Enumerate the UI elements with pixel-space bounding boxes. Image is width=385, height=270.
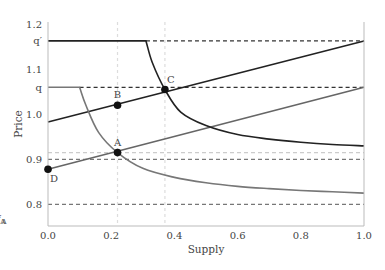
labeled-points: ABCD [44, 74, 175, 185]
x-tick-label: 0.2 [103, 230, 119, 241]
tick-labels: 1.2q′1.1q1.00.90.80.00.20.40.60.81.0yAy′… [0, 19, 372, 241]
y-tick-label: 0.9 [26, 154, 42, 165]
y-tick-label: 0.8 [26, 199, 42, 210]
point-label-d: D [50, 173, 58, 184]
point-a [114, 149, 122, 157]
y-tick-label: 1.1 [26, 64, 42, 75]
supply-price-chart: 1.2q′1.1q1.00.90.80.00.20.40.60.81.0yAy′… [0, 0, 385, 270]
y-axis-label: Price [12, 110, 24, 138]
x-axis-label: Supply [188, 243, 225, 255]
x-tick-label: 0.6 [230, 230, 246, 241]
y-tick-label: q′ [33, 35, 42, 46]
y-a-prime-annotation: y′A [0, 213, 7, 226]
y-tick-label: q [36, 82, 43, 93]
point-c [161, 86, 169, 94]
point-d [44, 165, 52, 173]
point-label-a: A [113, 137, 122, 148]
point-label-c: C [167, 74, 175, 85]
x-tick-label: 0.4 [166, 230, 182, 241]
lower-demand-curve [48, 87, 364, 193]
series-group [48, 41, 364, 193]
y-tick-label: 1.0 [26, 109, 42, 120]
point-b [114, 102, 122, 110]
point-label-b: B [114, 89, 121, 100]
x-tick-label: 0.8 [293, 230, 309, 241]
x-tick-label: 1.0 [356, 230, 372, 241]
x-tick-label: 0.0 [40, 230, 56, 241]
upper-supply-line [48, 41, 364, 122]
upper-demand-curve [48, 41, 364, 146]
y-tick-label: 1.2 [26, 19, 42, 30]
